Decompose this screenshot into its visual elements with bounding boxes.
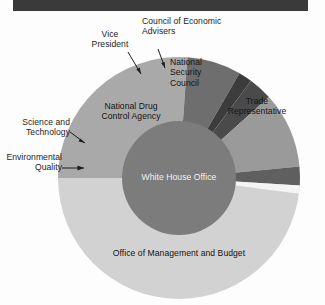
- label-vice-president: Vice President: [88, 29, 132, 50]
- figure-canvas: Vice President Council of Economic Advis…: [0, 0, 325, 305]
- label-national-security-council: National Security Council: [170, 57, 224, 88]
- label-council-of-economic-advisers: Council of Economic Advisers: [142, 16, 247, 37]
- label-white-house-office: White House Office: [129, 172, 229, 182]
- label-national-drug-control-agency: National Drug Control Agency: [91, 101, 171, 122]
- label-trade-representative: Trade Representative: [219, 96, 295, 117]
- label-office-of-management-and-budget: Office of Management and Budget: [89, 248, 269, 258]
- label-science-and-technology: Science and Technology: [4, 117, 70, 138]
- label-environmental-quality: Environmental Quality: [0, 152, 62, 173]
